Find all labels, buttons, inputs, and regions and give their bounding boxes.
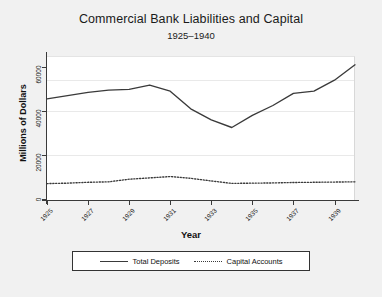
y-tick-40000 (42, 111, 47, 112)
series-line-capital-accounts (47, 177, 355, 184)
x-tick-1929 (129, 200, 130, 205)
y-tick-60000 (42, 67, 47, 68)
y-tick-20000 (42, 155, 47, 156)
x-tick-1925 (47, 200, 48, 205)
chart-figure: Commercial Bank Liabilities and Capital … (0, 0, 382, 297)
legend-entry-capital-accounts: Capital Accounts (194, 257, 283, 266)
solid-line-key-icon (100, 261, 128, 262)
x-tick-1933 (211, 200, 212, 205)
y-tick-label-wrap: 0 (4, 194, 38, 204)
x-tick-1927 (88, 200, 89, 205)
y-axis-title: Millions of Dollars (18, 58, 28, 188)
legend-label-total-deposits: Total Deposits (133, 257, 180, 266)
y-tick-label-60000: 60000 (35, 66, 42, 100)
x-tick-1935 (252, 200, 253, 205)
x-tick-1937 (293, 200, 294, 205)
x-axis-line (42, 200, 359, 201)
legend-label-capital-accounts: Capital Accounts (227, 257, 283, 266)
legend-entry-total-deposits: Total Deposits (100, 257, 180, 266)
x-tick-1939 (335, 200, 336, 205)
x-tick-1931 (170, 200, 171, 205)
y-axis-line (46, 52, 47, 204)
chart-legend: Total Deposits Capital Accounts (72, 251, 310, 271)
x-axis-title: Year (0, 229, 382, 240)
y-tick-label-20000: 20000 (35, 154, 42, 188)
y-tick-label-40000: 40000 (35, 110, 42, 144)
dotted-line-key-icon (194, 261, 222, 262)
series-line-total-deposits (47, 65, 355, 128)
